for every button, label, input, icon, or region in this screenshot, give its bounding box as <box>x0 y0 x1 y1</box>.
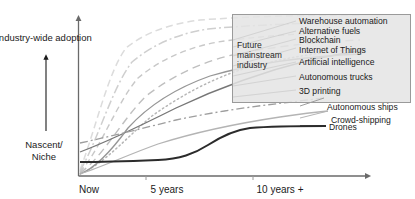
chart-canvas: Industry-wide adoption Nascent/ Niche No… <box>0 0 415 199</box>
series-label-drones: Drones <box>329 122 357 132</box>
series-label-autonomous-trucks: Autonomous trucks <box>299 72 373 82</box>
y-axis-top-label-line1: Industry-wide adoption <box>0 32 92 43</box>
x-tick-label-5-years: 5 years <box>151 184 184 195</box>
y-axis-bottom-label-line1: Nascent/ <box>25 139 63 150</box>
series-label-blockchain: Blockchain <box>299 35 341 45</box>
series-label-internet-of-things: Internet of Things <box>299 45 366 55</box>
future-mainstream-label-line2: mainstream <box>237 50 282 60</box>
y-axis-bottom-label-line2: Niche <box>32 151 56 162</box>
future-mainstream-label-line1: Future <box>237 40 262 50</box>
future-mainstream-label-line3: industry <box>237 60 268 70</box>
series-label-artificial-intelligence: Artificial intelligence <box>299 57 375 67</box>
x-tick-label-now: Now <box>79 184 100 195</box>
x-tick-label-10-years: 10 years + <box>257 184 304 195</box>
series-label-autonomous-ships: Autonomous ships <box>327 102 398 112</box>
technology-adoption-chart: Industry-wide adoption Nascent/ Niche No… <box>0 0 415 199</box>
series-label-warehouse-automation: Warehouse automation <box>299 16 388 26</box>
series-label-3d-printing: 3D printing <box>299 86 341 96</box>
